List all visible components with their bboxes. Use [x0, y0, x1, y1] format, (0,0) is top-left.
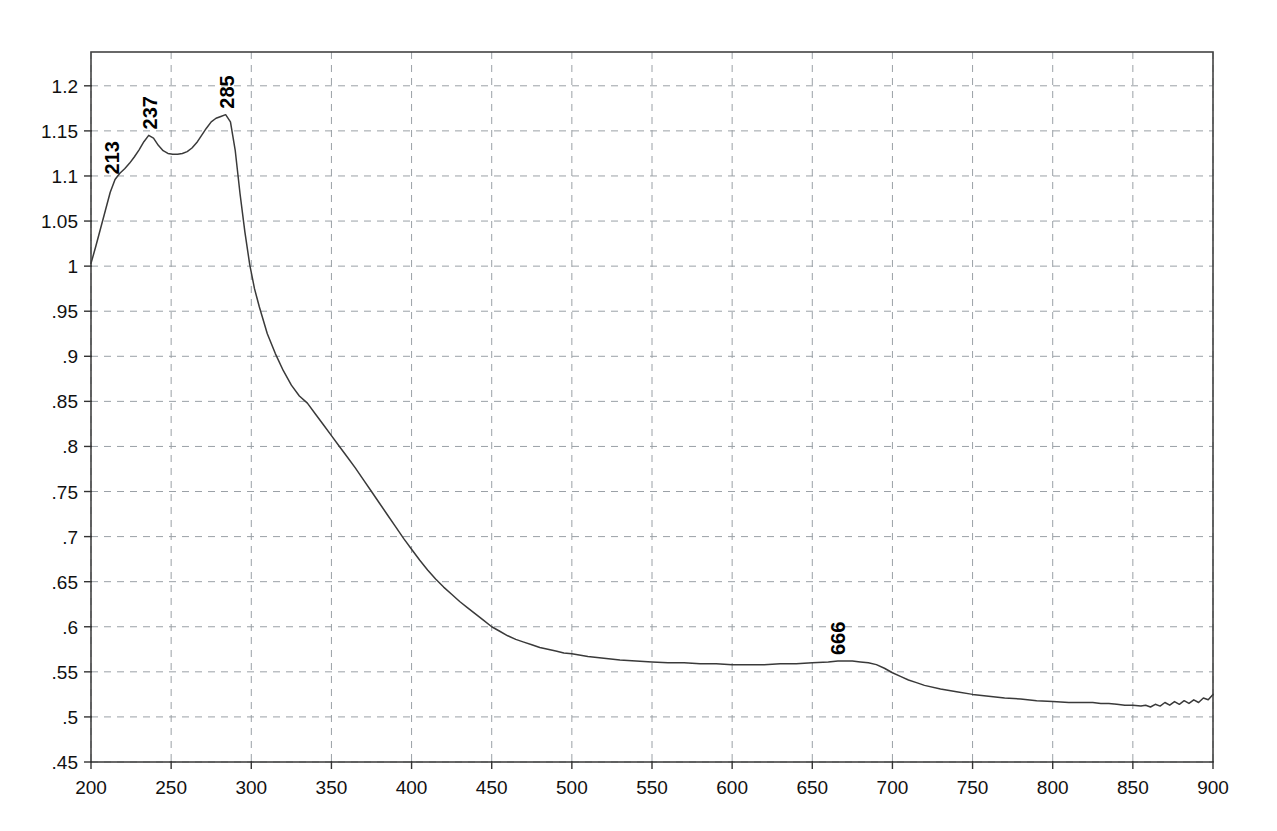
x-tick-label: 250	[155, 777, 187, 798]
peak-annotation-label: 666	[827, 622, 849, 655]
peak-annotation-label: 285	[216, 75, 238, 108]
x-tick-label: 300	[235, 777, 267, 798]
y-tick-label: .55	[52, 662, 78, 683]
y-tick-label: .65	[52, 572, 78, 593]
x-tick-label: 800	[1037, 777, 1069, 798]
x-tick-label: 450	[476, 777, 508, 798]
y-tick-label: 1.1	[52, 166, 78, 187]
y-tick-label: .7	[62, 527, 78, 548]
x-tick-label: 850	[1117, 777, 1149, 798]
y-tick-label: .75	[52, 482, 78, 503]
x-tick-label: 350	[316, 777, 348, 798]
x-tick-label: 750	[957, 777, 989, 798]
y-tick-label: .9	[62, 346, 78, 367]
y-tick-label: 1	[67, 256, 78, 277]
x-tick-label: 600	[716, 777, 748, 798]
y-tick-label: .45	[52, 752, 78, 773]
y-tick-label: .95	[52, 301, 78, 322]
x-tick-label: 200	[75, 777, 107, 798]
x-tick-label: 550	[636, 777, 668, 798]
spectrum-chart: .45.5.55.6.65.7.75.8.85.9.9511.051.11.15…	[0, 0, 1277, 831]
y-tick-label: 1.2	[52, 76, 78, 97]
x-axis-tick-labels: 2002503003504004505005506006507007508008…	[75, 777, 1229, 798]
y-tick-label: 1.15	[41, 121, 78, 142]
y-tick-label: .85	[52, 391, 78, 412]
spectrum-chart-page: .45.5.55.6.65.7.75.8.85.9.9511.051.11.15…	[0, 0, 1277, 831]
peak-annotation-label: 237	[139, 96, 161, 129]
x-tick-label: 700	[877, 777, 909, 798]
x-tick-label: 500	[556, 777, 588, 798]
x-tick-label: 400	[396, 777, 428, 798]
y-tick-label: .5	[62, 707, 78, 728]
plot-background	[0, 0, 1277, 831]
y-tick-label: 1.05	[41, 211, 78, 232]
x-tick-label: 650	[796, 777, 828, 798]
y-tick-label: .6	[62, 617, 78, 638]
x-tick-label: 900	[1197, 777, 1229, 798]
y-tick-label: .8	[62, 436, 78, 457]
peak-annotation-label: 213	[101, 141, 123, 174]
